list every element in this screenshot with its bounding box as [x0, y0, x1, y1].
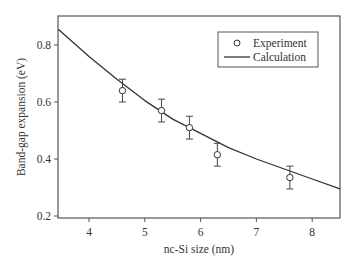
y-tick-label: 0.6 — [37, 96, 52, 108]
x-tick-label: 7 — [254, 226, 260, 238]
x-tick-label: 6 — [198, 226, 204, 238]
y-tick-label: 0.8 — [37, 39, 52, 51]
legend-experiment-label: Experiment — [253, 37, 307, 50]
experiment-point — [214, 143, 221, 166]
legend-experiment-marker-icon — [234, 40, 240, 46]
y-tick-label: 0.4 — [37, 153, 52, 165]
x-tick-label: 5 — [142, 226, 148, 238]
chart-canvas: 456780.20.40.60.8 Experiment Calculation… — [0, 0, 357, 266]
y-axis-label: Band-gap expansion (eV) — [15, 58, 28, 176]
experiment-point — [186, 116, 193, 139]
experiment-point — [119, 79, 126, 102]
x-tick-label: 8 — [309, 226, 315, 238]
x-axis-label: nc-Si size (nm) — [164, 243, 234, 256]
y-tick-label: 0.2 — [37, 210, 52, 222]
legend: Experiment Calculation — [218, 32, 318, 67]
legend-calculation-label: Calculation — [253, 51, 306, 63]
x-tick-label: 4 — [86, 226, 92, 238]
experiment-point — [158, 99, 165, 122]
experiment-points — [119, 79, 293, 189]
